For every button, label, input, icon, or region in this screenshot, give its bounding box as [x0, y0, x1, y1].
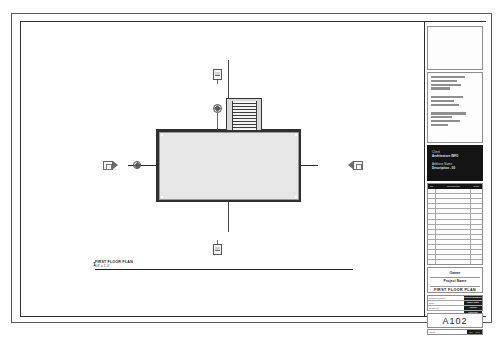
grid-bubble-leader: [217, 113, 218, 130]
address-value: Description - 00: [432, 166, 478, 170]
section-marker-top-tail: [217, 80, 218, 84]
elevation-marker-left[interactable]: [103, 161, 113, 170]
info-line: [431, 120, 460, 122]
stair-tread: [233, 109, 256, 110]
table-row[interactable]: [428, 260, 482, 265]
view-title-underline: [95, 269, 353, 270]
project-meta-box[interactable]: Project number Project Number Date Issue…: [427, 295, 483, 311]
view-title-block[interactable]: 1 FIRST FLOOR PLAN 1/4" = 1'-0": [95, 260, 355, 270]
drawing-area[interactable]: 1 FIRST FLOOR PLAN 1/4" = 1'-0": [21, 22, 421, 316]
sheet-title-label: FIRST FLOOR PLAN: [430, 287, 480, 295]
client-value: Architecture INFO: [432, 154, 478, 158]
info-line: [431, 124, 448, 126]
building-footprint[interactable]: [156, 129, 301, 202]
meta-label: Date: [428, 302, 464, 305]
meta-value: Author: [464, 306, 482, 310]
section-marker-bottom-tail: [217, 240, 218, 244]
stair-run: [232, 101, 257, 130]
info-line: [431, 116, 452, 118]
stair-tread: [233, 118, 256, 119]
section-marker-bar-icon: [215, 247, 220, 251]
scale-label: Scale: [428, 331, 467, 333]
elevation-marker-inner-icon: [356, 164, 362, 170]
elevation-marker-inner-icon: [106, 164, 112, 170]
project-name-label: Project Name: [430, 278, 480, 287]
scale-value: 1/4" = 1'-0": [467, 330, 482, 334]
owner-project-box[interactable]: Owner Project Name FIRST FLOOR PLAN: [427, 267, 483, 293]
revision-table[interactable]: No. Description Date: [427, 183, 483, 265]
meta-label: Drawn by: [428, 307, 464, 310]
corner-marker: [161, 196, 163, 198]
stair-tread: [233, 115, 256, 116]
elevation-arrow-right-icon: [113, 161, 118, 169]
meta-value: Issue Date: [464, 301, 482, 305]
view-scale-label: 1/4" = 1'-0": [95, 265, 355, 269]
project-info-box[interactable]: Client Architecture INFO Address Name De…: [427, 145, 483, 181]
info-line: [431, 112, 466, 114]
drawing-sheet: 1 FIRST FLOOR PLAN 1/4" = 1'-0": [0, 0, 503, 338]
meta-value: Project Number: [464, 296, 482, 300]
corner-marker: [295, 196, 297, 198]
stair-tread: [233, 124, 256, 125]
corner-marker: [161, 134, 163, 136]
info-line: [431, 80, 457, 82]
sheet-number: A102: [442, 316, 467, 326]
elevation-marker-right[interactable]: [353, 161, 363, 170]
stair-element[interactable]: [226, 98, 262, 131]
stair-tread: [233, 112, 256, 113]
view-number: 1: [93, 261, 96, 267]
owner-label: Owner: [430, 270, 480, 279]
stair-tread: [233, 127, 256, 128]
logo-box[interactable]: [427, 26, 483, 70]
title-block[interactable]: Client Architecture INFO Address Name De…: [424, 22, 486, 316]
info-line: [431, 76, 465, 78]
info-line: [431, 104, 459, 106]
sheet-number-box[interactable]: A102: [427, 313, 483, 328]
stair-tread: [233, 106, 256, 107]
meta-label: Project number: [428, 297, 464, 300]
section-marker-bar-icon: [215, 72, 220, 76]
section-marker-bottom[interactable]: [213, 244, 222, 255]
stair-tread: [233, 121, 256, 122]
info-line: [431, 100, 454, 102]
consultant-info-box[interactable]: [427, 72, 483, 143]
info-line: [431, 87, 450, 89]
info-line: [431, 84, 461, 86]
corner-marker: [295, 134, 297, 136]
section-marker-top[interactable]: [213, 69, 222, 80]
sheet-scale-box[interactable]: Scale 1/4" = 1'-0": [427, 329, 483, 335]
info-line: [431, 96, 463, 98]
stair-tread: [233, 103, 256, 104]
building-floor-fill: [159, 132, 299, 200]
